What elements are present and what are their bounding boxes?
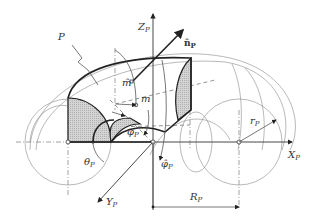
right-hatched-section (176, 58, 191, 120)
label-z-axis: ZP (137, 21, 150, 34)
label-y-axis: YP (106, 196, 118, 209)
label-surface: P (57, 31, 65, 42)
label-normal: n̂P (184, 38, 197, 50)
label-major-radius: RP (189, 191, 203, 204)
y-axis (98, 142, 153, 202)
left-hatched-section (68, 98, 111, 142)
normal-vector (132, 30, 183, 82)
label-theta: θP (84, 156, 95, 169)
label-minor-radius: rP (250, 115, 260, 128)
torus-geometry-diagram: P ZP n̂P m̂ m φP θP φ̂P YP rP XP RP (0, 0, 323, 224)
label-x-axis: XP (287, 149, 300, 162)
label-m-hat: m̂ (122, 77, 131, 88)
label-m: m (141, 93, 150, 104)
surface-leader (72, 45, 98, 85)
label-phi-hat: φ̂P (161, 158, 173, 171)
